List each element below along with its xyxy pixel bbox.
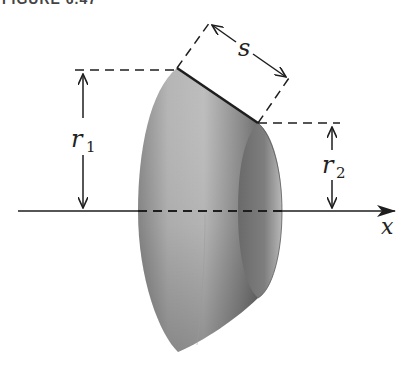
r1-label: r (71, 125, 84, 153)
r2-subscript: 2 (336, 164, 346, 182)
x-axis-label: x (381, 214, 394, 239)
s-label: s (238, 34, 250, 62)
frustum-figure: r 1 r 2 s x (0, 0, 418, 365)
r1-subscript: 1 (86, 138, 96, 156)
r2-label: r (322, 151, 335, 179)
